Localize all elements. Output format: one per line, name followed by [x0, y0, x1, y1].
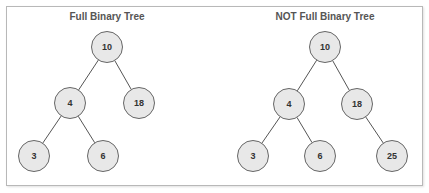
tree-title: Full Binary Tree — [69, 11, 144, 22]
tree-edge — [78, 116, 95, 143]
tree-node: 3 — [238, 141, 269, 172]
tree-node: 10 — [310, 32, 341, 63]
tree-node: 6 — [305, 141, 336, 172]
tree-edge — [262, 117, 280, 144]
tree-edge — [43, 116, 62, 143]
node-label: 6 — [317, 151, 322, 161]
node-label: 4 — [67, 98, 72, 108]
node-label: 4 — [286, 99, 291, 109]
tree-edge — [333, 61, 350, 91]
tree-node: 18 — [124, 88, 155, 119]
tree-edge — [297, 117, 312, 142]
tree-title: NOT Full Binary Tree — [276, 11, 375, 22]
tree-edge — [366, 117, 384, 143]
node-label: 18 — [134, 98, 144, 108]
node-label: 18 — [352, 99, 362, 109]
node-label: 10 — [102, 42, 112, 52]
binary-tree-diagram: Full Binary Tree1041836NOT Full Binary T… — [0, 0, 429, 193]
tree-node: 10 — [92, 32, 123, 63]
not-full-binary-tree: NOT Full Binary Tree104183625 — [238, 11, 408, 172]
tree-node: 25 — [377, 141, 408, 172]
tree-edge — [297, 60, 316, 91]
tree-node: 6 — [88, 141, 119, 172]
tree-node: 18 — [342, 89, 373, 120]
node-label: 10 — [320, 42, 330, 52]
tree-edge — [79, 60, 99, 90]
tree-node: 3 — [19, 141, 50, 172]
full-binary-tree: Full Binary Tree1041836 — [19, 11, 155, 172]
tree-edge — [115, 60, 132, 89]
tree-node: 4 — [55, 88, 86, 119]
node-label: 6 — [100, 151, 105, 161]
node-label: 3 — [250, 151, 255, 161]
tree-node: 4 — [274, 89, 305, 120]
node-label: 3 — [31, 151, 36, 161]
node-label: 25 — [387, 151, 397, 161]
